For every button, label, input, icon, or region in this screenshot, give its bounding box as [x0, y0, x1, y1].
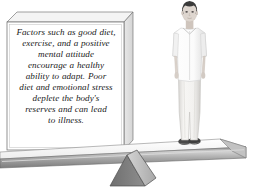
sleeve-right	[201, 33, 207, 57]
eye-right	[191, 11, 194, 13]
hand-left	[175, 72, 179, 78]
standing-person-figure	[173, 1, 207, 145]
hand-right	[201, 72, 205, 78]
text-box-shape	[7, 12, 133, 150]
ear-right	[196, 11, 198, 15]
text-box-top-face	[7, 12, 133, 22]
arm-right	[202, 56, 205, 73]
arm-left	[175, 56, 178, 73]
pants	[179, 77, 201, 140]
text-box-front-face	[7, 22, 124, 150]
sleeve-left	[173, 33, 179, 57]
illustration-svg	[0, 0, 253, 190]
illustration-canvas: Factors such as good diet, exercise, and…	[0, 0, 253, 190]
text-box-side-face	[124, 12, 133, 150]
neck	[186, 21, 194, 29]
ear-left	[181, 11, 183, 15]
eye-left	[185, 11, 188, 13]
